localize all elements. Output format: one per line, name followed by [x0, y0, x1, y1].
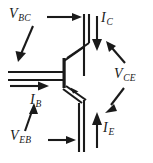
label-veb-symbol: V [10, 128, 19, 143]
collector-lead [64, 43, 89, 61]
vbc-diagonal-pointer [16, 26, 34, 62]
label-veb: VEB [10, 129, 31, 143]
label-ic-subscript: C [106, 17, 113, 27]
emitter-lead [63, 86, 86, 103]
transistor-figure: VBC IC VCE IB IE VEB [0, 0, 153, 163]
label-ie: IE [103, 121, 114, 135]
vbc-arrow [47, 13, 82, 21]
ib-arrow [10, 82, 49, 91]
vce-upper-arrow [106, 41, 125, 63]
label-ib-subscript: B [35, 99, 41, 109]
emitter-rail [79, 100, 84, 152]
label-vce-subscript: CE [123, 73, 136, 83]
label-vce: VCE [114, 67, 135, 81]
base-rail [8, 72, 63, 80]
vce-lower-arrow [105, 88, 124, 113]
ie-arrow [92, 112, 102, 148]
label-ie-subscript: E [108, 127, 114, 137]
label-vbc-subscript: BC [18, 13, 31, 23]
label-ib: IB [30, 93, 41, 107]
veb-arrow [48, 136, 76, 144]
label-vce-symbol: V [114, 66, 123, 81]
label-vbc-symbol: V [9, 6, 18, 21]
label-veb-subscript: EB [19, 135, 31, 145]
label-ic: IC [101, 11, 112, 25]
label-vbc: VBC [9, 7, 30, 21]
